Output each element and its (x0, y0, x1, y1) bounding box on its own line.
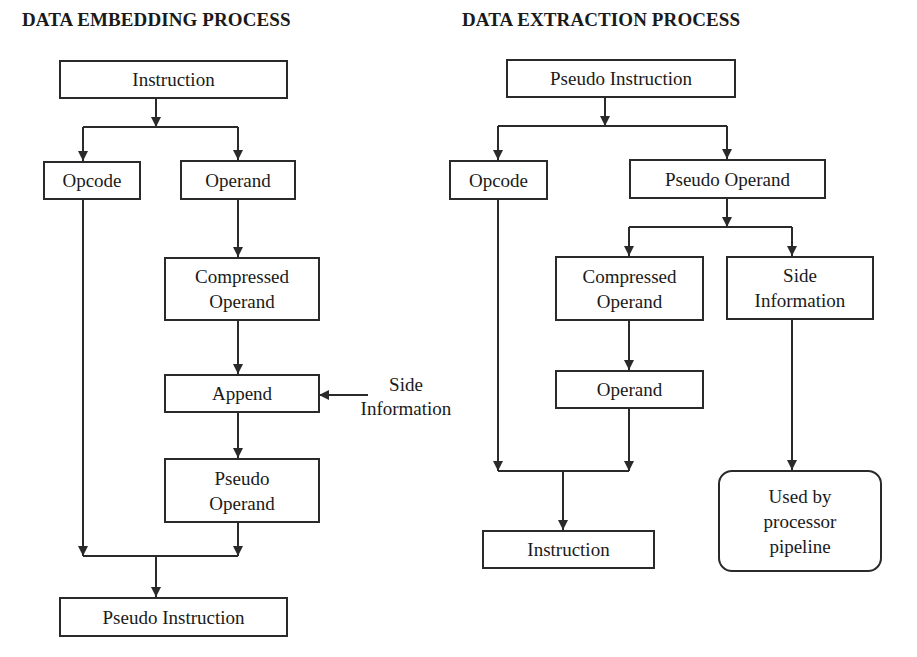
extraction-title: DATA EXTRACTION PROCESS (462, 9, 740, 31)
arrowhead (151, 117, 161, 127)
extract-used-by-pipeline-box: Used by processor pipeline (718, 470, 882, 572)
embed-compressed-operand-box: Compressed Operand (164, 257, 320, 321)
arrowhead (78, 546, 88, 556)
arrowhead (233, 448, 243, 458)
arrowhead (319, 390, 329, 400)
node-label: Compressed Operand (583, 264, 677, 314)
embed-side-information-label: Side Information (350, 373, 462, 421)
extract-instruction-box: Instruction (482, 530, 655, 569)
arrowhead (787, 460, 797, 470)
node-label: Append (212, 381, 272, 406)
extract-pseudo-operand-box: Pseudo Operand (629, 159, 826, 199)
embed-append-box: Append (164, 374, 320, 413)
arrowhead (493, 150, 503, 160)
arrowhead (722, 149, 732, 159)
extract-operand-box: Operand (555, 370, 704, 409)
arrowhead (558, 520, 568, 530)
extract-side-information-box: Side Information (726, 256, 874, 320)
node-label: Side Information (746, 263, 854, 313)
node-label: Pseudo Instruction (550, 66, 692, 91)
arrowhead (78, 151, 88, 161)
node-label: Pseudo Operand (665, 167, 790, 192)
node-label: Opcode (469, 168, 528, 193)
embedding-title: DATA EMBEDDING PROCESS (22, 9, 291, 31)
node-label: Pseudo Instruction (103, 605, 245, 630)
embed-opcode-box: Opcode (43, 161, 141, 200)
node-label: Operand (205, 168, 270, 193)
arrowhead (624, 246, 634, 256)
node-label: Used by processor pipeline (754, 484, 846, 559)
extract-compressed-operand-box: Compressed Operand (555, 256, 704, 321)
node-label: Instruction (527, 537, 609, 562)
arrowhead (787, 246, 797, 256)
arrowhead (493, 461, 503, 471)
arrowhead (600, 116, 610, 126)
node-label: Operand (597, 377, 662, 402)
arrowhead (151, 587, 161, 597)
arrowhead (233, 150, 243, 160)
node-label: Pseudo Operand (206, 466, 278, 516)
embed-instruction-box: Instruction (59, 60, 288, 99)
embed-pseudo-instruction-box: Pseudo Instruction (59, 597, 288, 637)
arrowhead (624, 461, 634, 471)
arrowhead (233, 546, 243, 556)
arrowhead (233, 364, 243, 374)
embed-operand-box: Operand (180, 160, 296, 200)
arrowhead (624, 360, 634, 370)
node-label: Instruction (132, 67, 214, 92)
embed-pseudo-operand-box: Pseudo Operand (164, 458, 320, 523)
extract-opcode-box: Opcode (449, 160, 548, 200)
node-label: Opcode (62, 168, 121, 193)
arrowhead (233, 247, 243, 257)
arrowhead (722, 217, 732, 227)
diagram-canvas: DATA EMBEDDING PROCESS Instruction Opcod… (0, 0, 917, 657)
node-label: Compressed Operand (195, 264, 289, 314)
extract-pseudo-instruction-box: Pseudo Instruction (506, 59, 736, 98)
